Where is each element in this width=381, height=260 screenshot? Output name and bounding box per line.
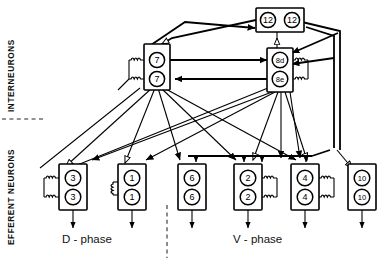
- cell-label-7b: 7: [154, 74, 159, 84]
- neural-circuit-diagram: INTERNEURONS EFFERENT NEURONS: [0, 0, 381, 260]
- cell-label-7a: 7: [154, 55, 159, 65]
- cell-label-6b: 6: [189, 192, 194, 202]
- cell-label-2a: 2: [245, 173, 250, 183]
- cell-label-1b: 1: [129, 192, 134, 202]
- coil-icon-1: [111, 182, 113, 195]
- efferent-box-6[interactable]: 6 6: [178, 164, 206, 228]
- phase-label-d: D - phase: [62, 233, 112, 245]
- wire-8-to-4b: [290, 92, 300, 158]
- efferent-box-10[interactable]: 10 10: [348, 164, 376, 228]
- coil-icon-4-bottom: [319, 195, 334, 197]
- wire-bus-to-8d: [292, 33, 338, 53]
- cell-label-10b: 10: [358, 193, 366, 202]
- coil-icon-4-top: [319, 176, 334, 178]
- wire-7-to-2: [161, 88, 236, 160]
- wire-cross-7-far-left: [40, 88, 140, 168]
- coil-icon-7-top: [129, 58, 144, 60]
- cell-label-2b: 2: [245, 192, 250, 202]
- cell-label-4b: 4: [302, 192, 307, 202]
- coil-icon-7-bottom: [129, 77, 144, 79]
- cell-label-12a: 12: [263, 15, 273, 25]
- cell-label-3a: 3: [70, 173, 75, 183]
- wire-7-to-4: [164, 88, 296, 160]
- cell-label-12b: 12: [287, 15, 297, 25]
- efferent-region-label: EFFERENT NEURONS: [7, 149, 16, 245]
- wire-7-coil-tail: [118, 79, 129, 90]
- wire-bar-right-riser: [312, 150, 330, 156]
- coil-icon-2-top: [262, 176, 277, 178]
- diagram-canvas: INTERNEURONS EFFERENT NEURONS: [0, 0, 381, 260]
- coil-icon-2-bottom: [262, 195, 277, 197]
- coil-icon-3-bottom: [44, 195, 59, 197]
- cell-label-8d: 8d: [276, 56, 284, 65]
- coil-icon-8d: [293, 58, 308, 60]
- interneuron-box-8[interactable]: 8d 8e: [267, 48, 308, 92]
- cell-label-10a: 10: [358, 174, 366, 183]
- efferent-box-3[interactable]: 3 3: [44, 164, 87, 228]
- wire-7-to-6: [158, 88, 180, 160]
- coil-icon-8e: [293, 77, 308, 79]
- wire-8-to-1: [146, 92, 275, 160]
- wire-cross-left-right: [60, 88, 268, 172]
- efferent-box-2[interactable]: 2 2: [234, 164, 277, 228]
- cell-label-6a: 6: [189, 173, 194, 183]
- cell-label-4a: 4: [302, 173, 307, 183]
- interneurons-region-label: INTERNEURONS: [7, 39, 16, 112]
- cell-label-8e: 8e: [276, 75, 284, 84]
- interneuron-box-12[interactable]: 12 12: [256, 8, 304, 32]
- phase-label-v: V - phase: [233, 233, 282, 245]
- efferent-box-1[interactable]: 1 1: [111, 164, 146, 228]
- interneuron-box-7[interactable]: 7 7: [118, 44, 170, 90]
- cell-label-3b: 3: [70, 192, 75, 202]
- cell-label-1a: 1: [129, 173, 134, 183]
- wire-8-to-4: [285, 92, 307, 160]
- efferent-box-4[interactable]: 4 4: [291, 164, 334, 228]
- wire-8-to-3: [92, 92, 272, 160]
- coil-icon-3-top: [44, 176, 59, 178]
